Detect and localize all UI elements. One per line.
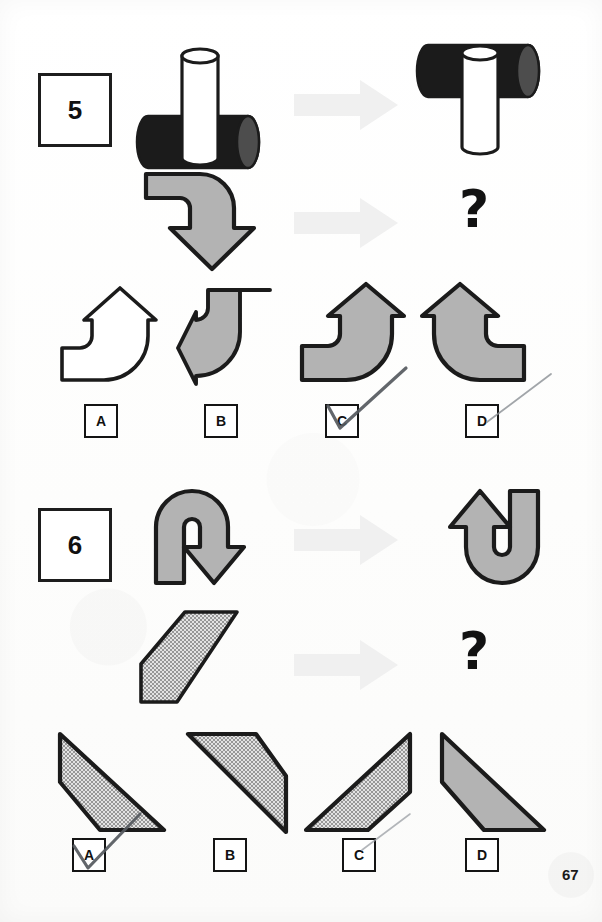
- question-number-5: 5: [38, 73, 112, 147]
- q5-option-b-letter: B: [204, 404, 238, 438]
- q6-example-transition-arrow-icon: [294, 515, 398, 565]
- q6-option-a-box[interactable]: A: [72, 838, 106, 872]
- q5-option-d-box[interactable]: D: [465, 404, 499, 438]
- q5-option-a[interactable]: [60, 288, 158, 388]
- q6-option-a-letter: A: [72, 838, 106, 872]
- q5-answer-placeholder: ?: [459, 183, 489, 235]
- q5-option-a-box[interactable]: A: [84, 404, 118, 438]
- q6-answer-placeholder: ?: [459, 625, 489, 677]
- q5-option-d-letter: D: [465, 404, 499, 438]
- q5-option-c[interactable]: [300, 284, 406, 388]
- q5-option-a-letter: A: [84, 404, 118, 438]
- q6-option-b-box[interactable]: B: [213, 838, 247, 872]
- question-number-box-5: 5: [38, 73, 106, 141]
- q6-option-c[interactable]: [302, 730, 416, 836]
- q6-option-b-letter: B: [213, 838, 247, 872]
- q6-option-d[interactable]: [436, 730, 550, 836]
- page-number: 67: [562, 866, 579, 883]
- q6-option-a[interactable]: [56, 730, 170, 836]
- q5-option-c-box[interactable]: C: [325, 404, 359, 438]
- q5-prompt-source-shape: [142, 168, 267, 273]
- q6-option-c-letter: C: [342, 838, 376, 872]
- q5-option-b[interactable]: [178, 288, 278, 388]
- q5-example-result-shape: [420, 35, 555, 165]
- q6-prompt-source-shape: [137, 608, 242, 706]
- question-number-6: 6: [38, 508, 112, 582]
- q6-option-b[interactable]: [184, 730, 292, 836]
- q6-option-d-letter: D: [465, 838, 499, 872]
- q6-option-c-box[interactable]: C: [342, 838, 376, 872]
- q6-prompt-transition-arrow-icon: [294, 640, 398, 690]
- q5-option-b-box[interactable]: B: [204, 404, 238, 438]
- q6-option-d-box[interactable]: D: [465, 838, 499, 872]
- q5-example-transition-arrow-icon: [294, 80, 398, 130]
- q5-example-source-shape: [140, 38, 265, 163]
- question-number-box-6: 6: [38, 508, 106, 576]
- q5-prompt-transition-arrow-icon: [294, 198, 398, 248]
- q5-option-c-letter: C: [325, 404, 359, 438]
- worksheet-page: 5: [0, 0, 602, 922]
- q6-example-result-shape: [432, 487, 542, 587]
- q5-option-d[interactable]: [420, 284, 526, 388]
- q6-example-source-shape: [152, 487, 262, 587]
